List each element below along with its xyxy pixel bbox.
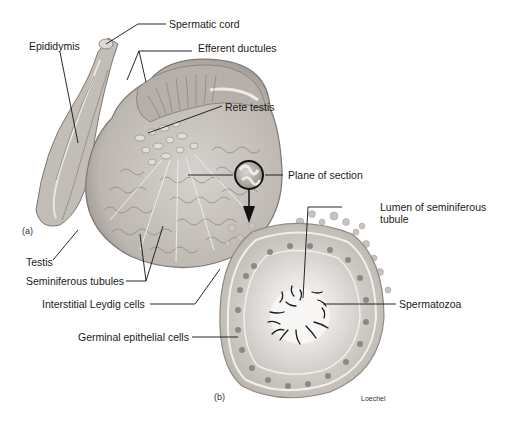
label-lumen-line2: tubule — [380, 213, 409, 225]
plane-of-section-lens — [235, 161, 263, 189]
label-spermatozoa: Spermatozoa — [399, 298, 461, 310]
label-lumen-line1: Lumen of seminiferous — [380, 201, 486, 213]
label-seminiferous-tubules: Seminiferous tubules — [26, 275, 124, 287]
label-testis: Testis — [26, 256, 53, 268]
label-rete-testis: Rete testis — [225, 101, 275, 113]
label-spermatic-cord: Spermatic cord — [169, 18, 240, 30]
label-efferent-ductules: Efferent ductules — [198, 42, 277, 54]
label-interstitial-leydig-cells: Interstitial Leydig cells — [42, 298, 145, 310]
label-plane-of-section: Plane of section — [288, 169, 363, 181]
label-germinal-epithelial-cells: Germinal epithelial cells — [78, 331, 189, 343]
artist-credit: Loechel — [361, 393, 386, 405]
label-epididymis: Epididymis — [29, 40, 80, 52]
panel-b-marker: (b) — [214, 391, 225, 403]
testis-diagram: Spermatic cord Epididymis Efferent ductu… — [0, 0, 509, 422]
panel-a-marker: (a) — [22, 225, 33, 237]
